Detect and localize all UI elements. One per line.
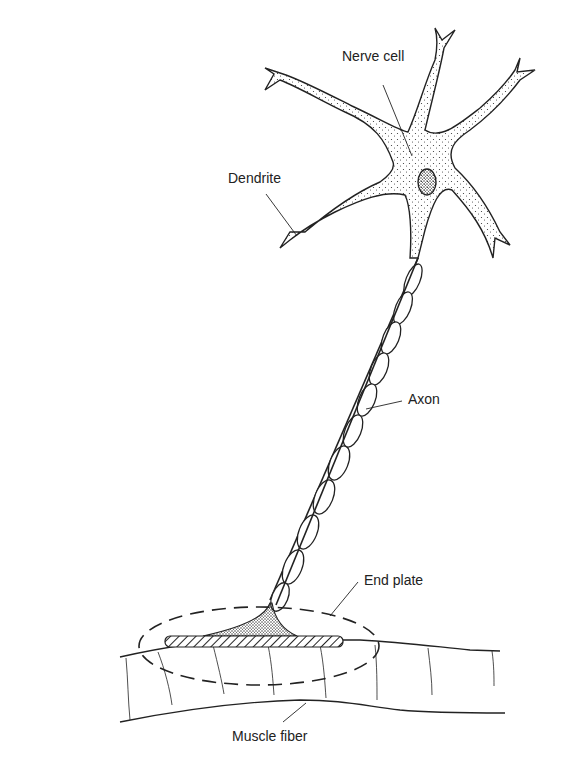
end-plate-band: [165, 636, 343, 647]
label-dendrite: Dendrite: [228, 170, 281, 186]
label-end-plate: End plate: [364, 572, 423, 588]
axon: [267, 258, 426, 614]
label-muscle-fiber: Muscle fiber: [232, 728, 307, 744]
diagram-drawing: [0, 0, 581, 775]
nucleus: [418, 169, 436, 195]
label-nerve-cell: Nerve cell: [342, 48, 404, 64]
label-axon: Axon: [408, 391, 440, 407]
neuron-diagram: Nerve cell Dendrite Axon End plate Muscl…: [0, 0, 581, 775]
